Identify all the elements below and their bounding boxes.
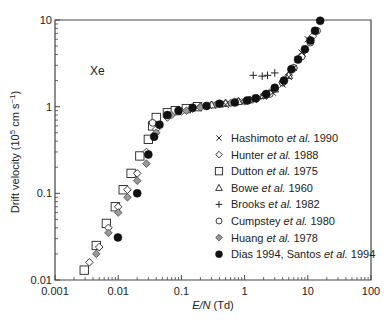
circle-filled-marker-icon (175, 107, 183, 115)
x-tick-label: 10 (302, 285, 314, 297)
legend-item: Brooks et al. 1982 (216, 198, 320, 210)
circle-filled-marker-icon (252, 94, 260, 102)
plus-marker-icon (216, 201, 223, 208)
y-tick-label: 0.01 (31, 274, 52, 286)
legend-item: Dutton et al. 1975 (215, 165, 317, 177)
plus-marker-icon (264, 72, 272, 80)
circle-filled-marker-icon (316, 17, 324, 25)
circle-filled-marker-icon (203, 102, 211, 110)
circle-filled-marker-icon (301, 45, 309, 53)
circle-open-marker-icon (216, 218, 222, 224)
drift-velocity-chart: 0.0010.010.11101000.010.1110 Xe Hashimot… (0, 0, 392, 325)
svg-text:Bowe et al. 1960: Bowe et al. 1960 (231, 182, 313, 194)
circle-filled-marker-icon (133, 189, 141, 197)
circle-filled-marker-icon (311, 27, 319, 35)
square-open-marker-icon (136, 152, 144, 160)
diamond-open-marker-icon (216, 151, 223, 158)
legend: Hashimoto et al. 1990Hunter et al. 1988D… (215, 132, 375, 260)
y-tick-label: 10 (40, 14, 52, 26)
x-marker-icon (216, 135, 221, 140)
circle-filled-marker-icon (163, 111, 171, 119)
legend-item: Hashimoto et al. 1990 (216, 132, 338, 144)
x-tick-label: 0.01 (107, 285, 128, 297)
circle-filled-marker-icon (231, 98, 239, 106)
x-tick-label: 0.001 (41, 285, 69, 297)
gas-annotation: Xe (90, 64, 105, 78)
circle-filled-marker-icon (215, 100, 223, 108)
circle-filled-marker-icon (280, 77, 288, 85)
diamond-gray-marker-icon (216, 234, 223, 241)
svg-text:Brooks et al. 1982: Brooks et al. 1982 (231, 198, 320, 210)
svg-text:Hashimoto et al. 1990: Hashimoto et al. 1990 (231, 132, 338, 144)
y-tick-label: 0.1 (37, 187, 52, 199)
legend-item: Hunter et al. 1988 (216, 149, 319, 161)
legend-item: Cumpstey et al. 1980 (216, 215, 335, 227)
triangle-open-marker-icon (216, 185, 223, 191)
circle-filled-marker-icon (294, 56, 302, 64)
circle-filled-marker-icon (144, 151, 152, 159)
circle-open-marker-icon (149, 119, 156, 126)
svg-text:Huang et al. 1978: Huang et al. 1978 (231, 232, 318, 244)
legend-item: Dias 1994, Santos et al. 1994 (216, 248, 376, 260)
diamond-gray-marker-icon (133, 177, 141, 185)
svg-text:Dias 1994, Santos et al. 1994: Dias 1994, Santos et al. 1994 (231, 248, 375, 260)
legend-item: Huang et al. 1978 (216, 232, 318, 244)
svg-text:Cumpstey et al. 1980: Cumpstey et al. 1980 (231, 215, 335, 227)
circle-filled-marker-icon (271, 84, 279, 92)
plus-marker-icon (271, 69, 279, 77)
legend-item: Bowe et al. 1960 (216, 182, 313, 194)
circle-filled-marker-icon (243, 96, 251, 104)
y-axis-title: Drift velocity (105 cm s−1) (8, 91, 21, 213)
circle-filled-marker-icon (216, 251, 223, 258)
svg-text:Dutton et al. 1975: Dutton et al. 1975 (231, 165, 318, 177)
diamond-open-marker-icon (86, 259, 94, 267)
circle-filled-marker-icon (114, 233, 122, 241)
x-tick-label: 100 (362, 285, 380, 297)
x-axis-title: E/N (Td) (192, 299, 234, 311)
plot-frame (55, 20, 371, 280)
circle-filled-marker-icon (287, 65, 295, 73)
plus-marker-icon (249, 72, 257, 80)
y-tick-label: 1 (46, 101, 52, 113)
circle-filled-marker-icon (306, 37, 314, 45)
circle-filled-marker-icon (155, 121, 163, 129)
circle-filled-marker-icon (150, 133, 158, 141)
square-open-marker-icon (215, 168, 222, 175)
diamond-gray-marker-icon (143, 160, 151, 168)
plus-marker-icon (258, 72, 266, 80)
x-tick-label: 0.1 (174, 285, 189, 297)
svg-text:Hunter et al. 1988: Hunter et al. 1988 (231, 149, 318, 161)
diamond-gray-marker-icon (124, 193, 132, 201)
circle-filled-marker-icon (262, 90, 270, 98)
diamond-gray-marker-icon (105, 229, 113, 237)
square-open-marker-icon (80, 266, 88, 274)
x-tick-label: 1 (242, 285, 248, 297)
circle-filled-marker-icon (189, 104, 197, 112)
series-brooks (249, 69, 278, 80)
